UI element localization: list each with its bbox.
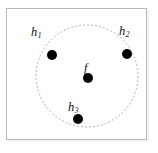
figure-canvas: h1 h2 h3 f <box>0 0 158 153</box>
label-h3-base: h <box>68 100 74 114</box>
label-f-base: f <box>84 61 88 75</box>
label-h3-subscript: 3 <box>75 106 79 115</box>
label-h3: h3 <box>68 101 78 114</box>
point-h2 <box>122 49 132 59</box>
diagram-graphics <box>0 0 158 153</box>
label-f: f <box>84 62 88 74</box>
label-h1: h1 <box>31 26 41 39</box>
label-h2-subscript: 2 <box>126 30 130 39</box>
label-h1-base: h <box>31 25 37 39</box>
point-h3 <box>73 114 83 124</box>
label-h2-base: h <box>119 24 125 38</box>
point-h1 <box>47 50 57 60</box>
label-h1-subscript: 1 <box>38 31 42 40</box>
label-h2: h2 <box>119 25 129 38</box>
